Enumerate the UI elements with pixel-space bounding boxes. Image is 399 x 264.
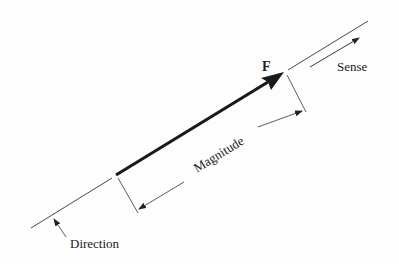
direction-label: Direction bbox=[70, 236, 120, 251]
vector-label-f: F bbox=[262, 59, 271, 74]
magnitude-extension-head bbox=[287, 75, 306, 112]
force-vector-diagram: F Sense Magnitude Direction bbox=[0, 0, 399, 264]
magnitude-label: Magnitude bbox=[191, 133, 247, 175]
diagram-canvas: F Sense Magnitude Direction bbox=[0, 0, 399, 264]
magnitude-extension-tail bbox=[118, 178, 138, 213]
sense-label: Sense bbox=[337, 59, 368, 74]
direction-leader-arrow bbox=[54, 219, 66, 237]
line-of-action-lower bbox=[31, 178, 112, 228]
